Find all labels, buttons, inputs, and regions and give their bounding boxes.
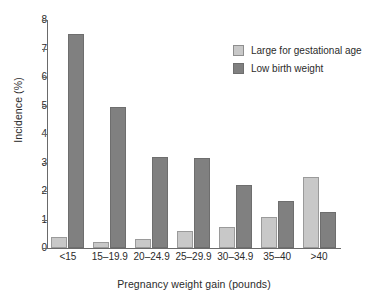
bar-lga	[303, 177, 319, 248]
legend-swatch	[233, 45, 244, 56]
bar-group	[173, 20, 215, 248]
bar-group	[47, 20, 89, 248]
bar-lbw	[236, 185, 252, 248]
x-axis-tick-label: 25–29.9	[173, 251, 215, 262]
x-axis-tick-labels: <1515–19.920–24.925–29.930–34.935–40>40	[47, 251, 340, 262]
bar-lbw	[152, 157, 168, 248]
bar-lga	[93, 242, 109, 248]
bar-lbw	[278, 201, 294, 248]
bar-lbw	[194, 158, 210, 248]
x-axis-tick-label: <15	[47, 251, 89, 262]
x-axis-tick-label: 35–40	[256, 251, 298, 262]
bar-lga	[177, 231, 193, 248]
legend-item: Low birth weight	[233, 63, 362, 74]
bar-lga	[261, 217, 277, 248]
x-axis-tick-label: 20–24.9	[131, 251, 173, 262]
x-axis-tick-label: 30–34.9	[214, 251, 256, 262]
bar-group	[131, 20, 173, 248]
bar-group	[89, 20, 131, 248]
bar-lbw	[320, 212, 336, 248]
x-axis-tick-label: >40	[298, 251, 340, 262]
legend-label: Low birth weight	[251, 63, 323, 74]
bar-lga	[135, 239, 151, 248]
incidence-bar-chart: Incidence (%) 012345678 <1515–19.920–24.…	[0, 0, 391, 303]
legend-item: Large for gestational age	[233, 45, 362, 56]
bar-lbw	[68, 34, 84, 248]
x-axis-title: Pregnancy weight gain (pounds)	[47, 278, 341, 290]
chart-legend: Large for gestational ageLow birth weigh…	[233, 45, 362, 81]
bar-lga	[51, 237, 67, 248]
bar-lga	[219, 227, 235, 248]
legend-swatch	[233, 63, 244, 74]
x-axis-line	[47, 248, 341, 249]
x-axis-tick-label: 15–19.9	[89, 251, 131, 262]
bar-lbw	[110, 107, 126, 248]
legend-label: Large for gestational age	[251, 45, 362, 56]
